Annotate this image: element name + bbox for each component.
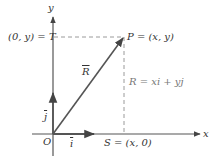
vector-r-label: R xyxy=(82,67,90,77)
y-axis-label: y xyxy=(48,3,54,13)
vector-j-label: j xyxy=(44,112,47,122)
vector-r xyxy=(53,38,123,134)
vector-i-label: i xyxy=(70,139,73,149)
x-axis-label: x xyxy=(203,129,209,139)
point-s-label: S = (x, 0) xyxy=(104,138,152,148)
point-p-label: P = (x, y) xyxy=(127,32,174,42)
origin-label: O xyxy=(43,137,51,147)
vector-equation: R = xi + yj xyxy=(129,77,184,87)
point-t-label: (0, y) = T xyxy=(8,32,56,42)
